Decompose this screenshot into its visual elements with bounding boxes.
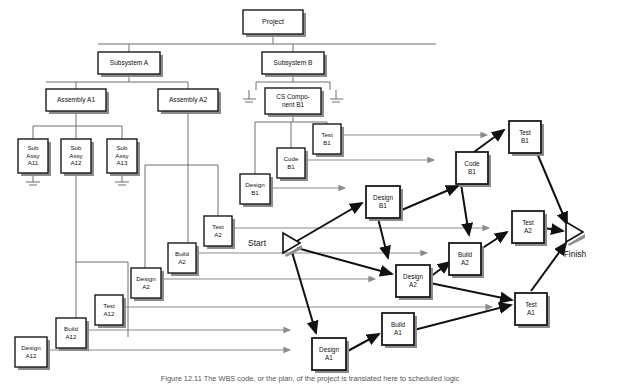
node-label: Subsystem B [274,59,313,67]
node-label: Test [212,223,224,230]
node-label: Code [284,155,299,162]
network-nodes: TestB1CodeB1DesignB1TestA2BuildA2DesignA… [312,121,550,373]
node-subsys_b[interactable]: Subsystem B [262,52,327,77]
node-label: A12 [65,333,77,340]
node-label: A13 [116,159,128,166]
node-label: Build [175,250,189,257]
node-label: B1 [521,137,529,144]
node-label: CS Compo- [276,93,309,101]
node-label: A12 [70,159,82,166]
node-label: Code [464,160,480,167]
node-label: Design [319,346,339,354]
node-label: Assembly A2 [169,96,207,104]
node-label: B1 [468,168,476,175]
node-cs_comp_b1[interactable]: CS Compo-nent B1 [265,88,324,117]
node-project[interactable]: Project [243,10,306,37]
milestone-finish[interactable]: Finish [564,222,587,259]
node-label: Test [519,129,531,136]
node-label: Project [262,18,284,26]
node-test_a2_net[interactable]: TestA2 [512,211,547,246]
node-label: A2 [214,231,222,238]
node-design_a2_src[interactable]: DesignA2 [131,268,164,301]
figure-caption: Figure 12.11 The WBS code, or the plan, … [161,374,460,383]
node-label: B1 [323,139,331,146]
node-code_b1_src[interactable]: CodeB1 [277,148,308,181]
node-label: Assy [69,152,83,159]
node-sub_a13[interactable]: SubAssyA13 [107,139,140,176]
node-test_a1_net[interactable]: TestA1 [515,293,550,328]
node-design_b1_net[interactable]: DesignB1 [366,186,403,221]
node-asm_a2[interactable]: Assembly A2 [158,89,221,114]
milestone-finish-label: Finish [564,249,587,259]
node-design_b1_src[interactable]: DesignB1 [240,174,273,207]
node-label: A2 [178,258,186,265]
node-design_a2_net[interactable]: DesignA2 [396,265,433,300]
node-label: Design [403,273,423,281]
node-label: A12 [25,352,37,359]
node-label: B1 [251,189,259,196]
node-label: Test [321,131,333,138]
node-code_b1_net[interactable]: CodeB1 [456,152,491,187]
node-label: Sub [116,144,128,151]
node-label: A1 [527,309,535,316]
node-label: Design [136,275,156,282]
node-label: A12 [103,310,115,317]
node-label: A2 [409,281,417,288]
node-label: A1 [325,354,333,361]
node-label: Design [21,344,41,351]
node-label: A2 [461,259,469,266]
node-build_a2_src[interactable]: BuildA2 [168,243,199,276]
node-test_b1_src[interactable]: TestB1 [313,124,344,157]
node-label: A1 [394,329,402,336]
node-label: Assy [115,152,129,159]
node-label: Test [525,301,537,308]
node-label: Test [522,219,534,226]
node-label: Design [373,194,393,202]
node-label: A11 [28,159,39,166]
node-sub_a11[interactable]: SubAssyA11 [18,139,51,176]
node-label: Subsystem A [110,59,149,67]
node-label: Build [64,325,78,332]
node-label: Sub [27,144,39,151]
node-label: A2 [524,227,532,234]
node-label: A2 [142,283,150,290]
node-asm_a1[interactable]: Assembly A1 [46,89,109,114]
milestone-start-label: Start [248,238,267,248]
wbs-network-diagram: Start Finish ProjectSubsystem ASubsystem… [0,0,620,385]
node-label: B1 [287,163,295,170]
node-test_b1_net[interactable]: TestB1 [509,121,544,156]
node-label: Test [103,302,115,309]
node-design_a1_net[interactable]: DesignA1 [312,338,349,373]
node-subsys_a[interactable]: Subsystem A [98,52,163,77]
node-build_a12_src[interactable]: BuildA12 [56,318,89,351]
node-label: Design [245,181,265,188]
node-label: nent B1 [282,101,304,108]
node-design_a12_src[interactable]: DesignA12 [15,337,50,370]
node-label: Assembly A1 [57,96,95,104]
figure-container: Start Finish ProjectSubsystem ASubsystem… [0,0,620,385]
node-label: B1 [379,202,387,209]
node-build_a2_net[interactable]: BuildA2 [449,243,484,278]
node-label: Build [458,251,473,258]
node-label: Assy [26,152,40,159]
node-build_a1_net[interactable]: BuildA1 [382,313,417,348]
node-label: Sub [70,144,82,151]
node-sub_a12[interactable]: SubAssyA12 [61,139,94,176]
node-test_a12_src[interactable]: TestA12 [95,295,126,328]
node-label: Build [391,321,406,328]
node-test_a2_src[interactable]: TestA2 [204,216,235,249]
